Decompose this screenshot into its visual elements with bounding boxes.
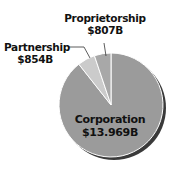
proprietorship-value: $807B: [64, 24, 146, 36]
partnership-label: Partnership $854B: [4, 41, 66, 65]
proprietorship-label: Proprietorship $807B: [64, 12, 146, 36]
corporation-name: Corporation: [74, 113, 146, 126]
corporation-label: Corporation $13.969B: [74, 113, 146, 139]
partnership-value: $854B: [4, 53, 66, 65]
pie-slices: [59, 53, 163, 157]
partnership-name: Partnership: [4, 41, 66, 53]
corporation-value: $13.969B: [74, 126, 146, 139]
partnership-leader-line-2: [84, 47, 90, 58]
proprietorship-name: Proprietorship: [64, 12, 146, 24]
